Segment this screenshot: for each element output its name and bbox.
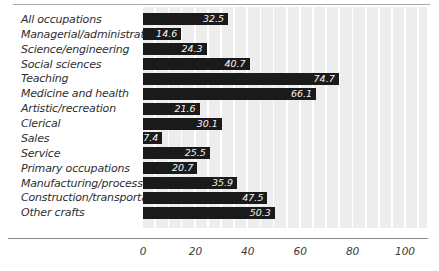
bar: 66.1 [143, 88, 316, 100]
bar-track: 32.5 [143, 13, 427, 25]
bar: 47.5 [143, 192, 267, 204]
bar-track: 24.3 [143, 43, 427, 55]
bar-track: 20.7 [143, 162, 427, 174]
bar-track: 74.7 [143, 73, 427, 85]
category-label: Manufacturing/processing [0, 177, 143, 190]
x-axis-tick-labels: 020406080100 [143, 245, 427, 259]
value-label: 40.7 [224, 58, 245, 70]
category-label: All occupations [0, 13, 143, 26]
value-label: 32.5 [203, 13, 224, 25]
category-label: Primary occupations [0, 162, 143, 175]
value-label: 35.9 [212, 177, 233, 189]
bar-rows-container: All occupations32.5Managerial/administra… [0, 12, 427, 220]
category-label: Science/engineering [0, 43, 143, 56]
bar-row: Clerical30.1 [0, 116, 427, 131]
x-axis-line [8, 238, 428, 239]
bar: 24.3 [143, 43, 207, 55]
value-label: 74.7 [314, 73, 335, 85]
category-label: Other crafts [0, 206, 143, 219]
top-rule-divider [13, 4, 430, 5]
bar-row: Managerial/administrative14.6 [0, 27, 427, 42]
bar-track: 66.1 [143, 88, 427, 100]
value-label: 66.1 [291, 88, 312, 100]
bar-track: 7.4 [143, 132, 427, 144]
x-tick-label: 100 [395, 245, 415, 257]
category-label: Construction/transportation [0, 191, 143, 204]
bar: 74.7 [143, 73, 339, 85]
bar-track: 40.7 [143, 58, 427, 70]
x-tick-label: 60 [294, 245, 307, 257]
category-label: Social sciences [0, 58, 143, 71]
bar: 50.3 [143, 207, 275, 219]
category-label: Clerical [0, 117, 143, 130]
bar-track: 47.5 [143, 192, 427, 204]
bar-row: Service25.5 [0, 146, 427, 161]
bar: 30.1 [143, 118, 222, 130]
bar-row: Other crafts50.3 [0, 205, 427, 220]
category-label: Service [0, 147, 143, 160]
value-label: 24.3 [182, 43, 203, 55]
bar-track: 21.6 [143, 103, 427, 115]
bar-row: Teaching74.7 [0, 72, 427, 87]
bar: 21.6 [143, 103, 200, 115]
category-label: Managerial/administrative [0, 28, 143, 41]
bar-row: Manufacturing/processing35.9 [0, 176, 427, 191]
value-label: 20.7 [172, 162, 193, 174]
bar-row: Sales7.4 [0, 131, 427, 146]
bar-row: Construction/transportation47.5 [0, 191, 427, 206]
category-label: Artistic/recreation [0, 102, 143, 115]
bar-row: All occupations32.5 [0, 12, 427, 27]
category-label: Sales [0, 132, 143, 145]
bar: 25.5 [143, 147, 210, 159]
bar-row: Social sciences40.7 [0, 57, 427, 72]
bar-row: Science/engineering24.3 [0, 42, 427, 57]
bar-track: 14.6 [143, 28, 427, 40]
value-label: 30.1 [197, 118, 218, 130]
bar-row: Artistic/recreation21.6 [0, 101, 427, 116]
bar: 7.4 [143, 132, 162, 144]
value-label: 7.4 [143, 132, 158, 144]
x-tick-label: 80 [346, 245, 359, 257]
horizontal-bar-chart: All occupations32.5Managerial/administra… [0, 0, 439, 271]
category-label: Medicine and health [0, 87, 143, 100]
bar: 40.7 [143, 58, 250, 70]
bar: 20.7 [143, 162, 197, 174]
bar: 35.9 [143, 177, 237, 189]
bar-track: 50.3 [143, 207, 427, 219]
bar-track: 35.9 [143, 177, 427, 189]
category-label: Teaching [0, 72, 143, 85]
x-tick-label: 0 [140, 245, 147, 257]
x-tick-label: 40 [241, 245, 254, 257]
bar-track: 25.5 [143, 147, 427, 159]
value-label: 21.6 [174, 103, 195, 115]
x-tick-label: 20 [189, 245, 202, 257]
value-label: 14.6 [156, 28, 177, 40]
value-label: 25.5 [185, 147, 206, 159]
bar: 14.6 [143, 28, 181, 40]
value-label: 47.5 [242, 192, 263, 204]
bar-row: Primary occupations20.7 [0, 161, 427, 176]
bar-track: 30.1 [143, 118, 427, 130]
bar: 32.5 [143, 13, 228, 25]
value-label: 50.3 [250, 207, 271, 219]
bar-row: Medicine and health66.1 [0, 86, 427, 101]
